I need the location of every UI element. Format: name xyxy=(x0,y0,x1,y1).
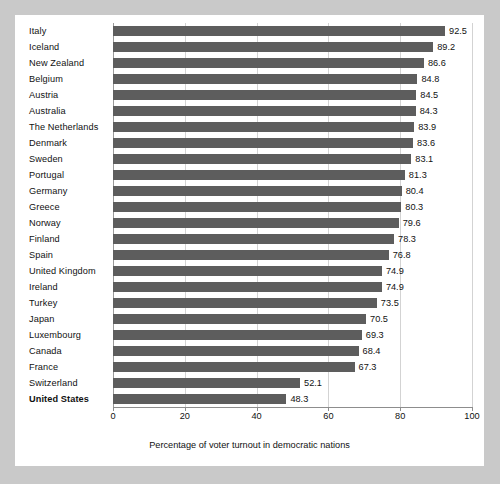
bar-row: New Zealand86.6 xyxy=(15,55,484,71)
bar xyxy=(113,58,424,68)
bar-track: 70.5 xyxy=(113,311,472,327)
bar-row: United States48.3 xyxy=(15,391,484,407)
bar xyxy=(113,266,382,276)
category-label: Germany xyxy=(29,183,113,199)
bar-value-label: 70.5 xyxy=(366,311,388,327)
bar-row: Germany80.4 xyxy=(15,183,484,199)
bar-value-label: 80.4 xyxy=(402,183,424,199)
bar-value-label: 84.8 xyxy=(417,71,439,87)
category-label: Turkey xyxy=(29,295,113,311)
bar xyxy=(113,330,362,340)
bar-track: 80.4 xyxy=(113,183,472,199)
bar xyxy=(113,362,355,372)
category-label: Norway xyxy=(29,215,113,231)
bar-row: Denmark83.6 xyxy=(15,135,484,151)
bar-track: 83.1 xyxy=(113,151,472,167)
bar-track: 68.4 xyxy=(113,343,472,359)
category-label: Australia xyxy=(29,103,113,119)
bar-track: 86.6 xyxy=(113,55,472,71)
bar-track: 67.3 xyxy=(113,359,472,375)
bar-value-label: 83.9 xyxy=(414,119,436,135)
bar-track: 73.5 xyxy=(113,295,472,311)
bar-row: Portugal81.3 xyxy=(15,167,484,183)
bar-row: Japan70.5 xyxy=(15,311,484,327)
bar-row: Italy92.5 xyxy=(15,23,484,39)
category-label: Greece xyxy=(29,199,113,215)
chart-panel: Italy92.5Iceland89.2New Zealand86.6Belgi… xyxy=(15,15,484,466)
bar-value-label: 69.3 xyxy=(362,327,384,343)
tick-label: 20 xyxy=(180,411,190,421)
bar xyxy=(113,138,413,148)
bar xyxy=(113,234,394,244)
bar-value-label: 92.5 xyxy=(445,23,467,39)
bar-value-label: 79.6 xyxy=(399,215,421,231)
bar-row: Spain76.8 xyxy=(15,247,484,263)
bar-track: 83.9 xyxy=(113,119,472,135)
tick-label: 60 xyxy=(323,411,333,421)
page-background: Italy92.5Iceland89.2New Zealand86.6Belgi… xyxy=(0,0,500,484)
bar-track: 83.6 xyxy=(113,135,472,151)
category-label: Japan xyxy=(29,311,113,327)
bar-value-label: 86.6 xyxy=(424,55,446,71)
bar xyxy=(113,298,377,308)
bar-value-label: 78.3 xyxy=(394,231,416,247)
bar-track: 84.8 xyxy=(113,71,472,87)
category-label: Belgium xyxy=(29,71,113,87)
bar-value-label: 83.6 xyxy=(413,135,435,151)
bar-track: 74.9 xyxy=(113,279,472,295)
category-label: France xyxy=(29,359,113,375)
category-label: United Kingdom xyxy=(29,263,113,279)
bar-row: France67.3 xyxy=(15,359,484,375)
bar xyxy=(113,202,401,212)
x-axis-ticks: 020406080100 xyxy=(113,407,472,425)
category-label: Portugal xyxy=(29,167,113,183)
category-label: Luxembourg xyxy=(29,327,113,343)
tick-label: 80 xyxy=(395,411,405,421)
category-label: New Zealand xyxy=(29,55,113,71)
bar xyxy=(113,106,416,116)
bar-value-label: 73.5 xyxy=(377,295,399,311)
bar-track: 76.8 xyxy=(113,247,472,263)
category-label: Austria xyxy=(29,87,113,103)
bar-value-label: 80.3 xyxy=(401,199,423,215)
bar-value-label: 74.9 xyxy=(382,279,404,295)
bar xyxy=(113,314,366,324)
bar-row: Australia84.3 xyxy=(15,103,484,119)
bar xyxy=(113,154,411,164)
bar xyxy=(113,378,300,388)
bar xyxy=(113,394,286,404)
tick-label: 0 xyxy=(110,411,115,421)
bar-row: Sweden83.1 xyxy=(15,151,484,167)
bar-value-label: 52.1 xyxy=(300,375,322,391)
bar-row: Turkey73.5 xyxy=(15,295,484,311)
bar-value-label: 74.9 xyxy=(382,263,404,279)
category-label: Sweden xyxy=(29,151,113,167)
bar-value-label: 81.3 xyxy=(405,167,427,183)
bar-value-label: 89.2 xyxy=(433,39,455,55)
bar-row: The Netherlands83.9 xyxy=(15,119,484,135)
bar-row: United Kingdom74.9 xyxy=(15,263,484,279)
tick-label: 40 xyxy=(251,411,261,421)
bar-rows: Italy92.5Iceland89.2New Zealand86.6Belgi… xyxy=(15,23,484,407)
bar-row: Austria84.5 xyxy=(15,87,484,103)
bar-value-label: 84.5 xyxy=(416,87,438,103)
bar-value-label: 76.8 xyxy=(389,247,411,263)
bar-track: 84.5 xyxy=(113,87,472,103)
bar xyxy=(113,122,414,132)
bar xyxy=(113,90,416,100)
bar-track: 74.9 xyxy=(113,263,472,279)
x-axis-title: Percentage of voter turnout in democrati… xyxy=(15,440,484,450)
category-label: Switzerland xyxy=(29,375,113,391)
category-label: Ireland xyxy=(29,279,113,295)
bar xyxy=(113,186,402,196)
bar-row: Finland78.3 xyxy=(15,231,484,247)
bar-row: Switzerland52.1 xyxy=(15,375,484,391)
bar-value-label: 68.4 xyxy=(359,343,381,359)
bar xyxy=(113,250,389,260)
bar-row: Iceland89.2 xyxy=(15,39,484,55)
bar-track: 81.3 xyxy=(113,167,472,183)
bar-row: Canada68.4 xyxy=(15,343,484,359)
tick-label: 100 xyxy=(464,411,479,421)
category-label: Italy xyxy=(29,23,113,39)
bar xyxy=(113,42,433,52)
